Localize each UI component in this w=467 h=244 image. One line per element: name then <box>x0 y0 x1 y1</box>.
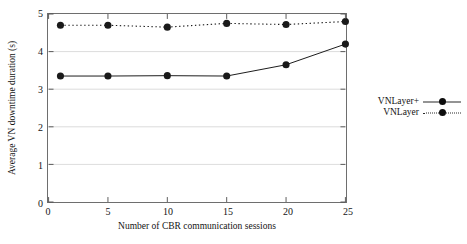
y-axis-title: Average VN downtime duration (s) <box>8 41 18 175</box>
y-tick-label: 4 <box>38 47 43 57</box>
x-tick-label: 5 <box>106 207 111 217</box>
y-tick-label: 5 <box>38 9 43 19</box>
plot-area: 012345 0510152025 <box>47 13 347 203</box>
x-axis-title: Number of CBR communication sessions <box>47 222 347 232</box>
legend-item-1[interactable]: VNLayer <box>357 107 461 118</box>
x-tick-label: 15 <box>223 207 233 217</box>
legend-item-label: VNLayer+ <box>378 97 419 107</box>
y-tick-label: 2 <box>38 123 43 133</box>
y-tick-label: 1 <box>38 161 43 171</box>
y-tick-label: 0 <box>38 199 43 209</box>
x-tick-label: 10 <box>163 207 173 217</box>
chart-legend: VNLayer+VNLayer <box>357 96 461 118</box>
legend-marker-icon <box>439 98 446 105</box>
legend-sample-swatch <box>423 107 461 118</box>
x-tick-label: 20 <box>283 207 293 217</box>
legend-sample-swatch <box>423 96 461 107</box>
legend-item-label: VNLayer <box>383 108 419 118</box>
y-tick-label: 3 <box>38 85 43 95</box>
chart-figure: Average VN downtime duration (s) Number … <box>0 0 467 244</box>
x-tick-label: 0 <box>46 207 51 217</box>
axis-tick-marks <box>48 14 346 202</box>
legend-marker-icon <box>439 109 446 116</box>
legend-item-0[interactable]: VNLayer+ <box>357 96 461 107</box>
x-tick-label: 25 <box>343 207 353 217</box>
